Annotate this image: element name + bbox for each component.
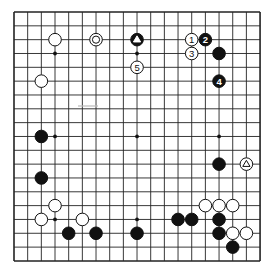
black-stone xyxy=(185,213,198,226)
black-stone xyxy=(213,47,226,60)
black-stone: 4 xyxy=(213,75,226,88)
white-stone xyxy=(199,199,212,212)
black-stone: 2 xyxy=(199,33,212,46)
white-stone: 3 xyxy=(185,47,198,60)
black-stone xyxy=(213,158,226,171)
hoshi-point xyxy=(135,218,139,222)
white-stone: 1 xyxy=(185,33,198,46)
white-stone xyxy=(90,33,103,46)
stones-layer: 12354 xyxy=(35,33,253,253)
white-stone: 5 xyxy=(131,61,144,74)
black-stone xyxy=(131,33,144,46)
black-stone xyxy=(213,213,226,226)
white-stone xyxy=(49,199,62,212)
go-board-diagram: 12354 xyxy=(0,0,271,272)
white-stone xyxy=(76,213,89,226)
move-number-label: 1 xyxy=(189,34,194,45)
black-stone xyxy=(35,172,48,185)
white-stone xyxy=(35,213,48,226)
black-stone xyxy=(131,227,144,240)
hoshi-point xyxy=(53,52,57,56)
white-stone xyxy=(226,199,239,212)
move-number-label: 3 xyxy=(189,48,194,59)
move-number-label: 4 xyxy=(216,76,222,87)
white-stone xyxy=(213,199,226,212)
white-stone xyxy=(240,227,253,240)
black-stone xyxy=(35,130,48,143)
white-stone xyxy=(49,33,62,46)
black-stone xyxy=(62,227,75,240)
move-number-label: 2 xyxy=(203,34,208,45)
black-stone xyxy=(90,227,103,240)
move-number-label: 5 xyxy=(134,62,139,73)
white-stone xyxy=(240,158,253,171)
black-stone xyxy=(172,213,185,226)
hoshi-point xyxy=(135,135,139,139)
black-stone xyxy=(226,241,239,254)
white-stone xyxy=(226,227,239,240)
black-stone xyxy=(213,227,226,240)
hoshi-point xyxy=(217,135,221,139)
hoshi-point xyxy=(53,218,57,222)
white-stone xyxy=(35,75,48,88)
hoshi-point xyxy=(135,52,139,56)
hoshi-point xyxy=(53,135,57,139)
